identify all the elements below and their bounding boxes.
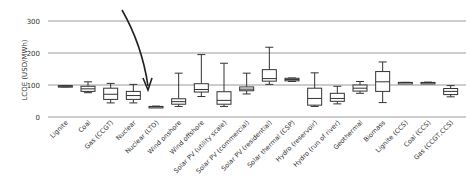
box-hydro-reservoir- — [308, 73, 322, 107]
box-nuclear — [126, 84, 140, 103]
box-nuclear-lto- — [149, 106, 163, 108]
box-wind-offshore — [194, 55, 208, 97]
box-geothermal — [353, 81, 367, 93]
box-lignite-ccs- — [398, 82, 412, 84]
box-gas-ccgt-ccs- — [444, 86, 458, 97]
box-solar-pv-commercial- — [240, 73, 254, 94]
x-tick-label: Gas (CCGT,CCS) — [412, 119, 455, 162]
box-gas-ccgt- — [104, 83, 118, 103]
lcoe-boxplot-chart: 0100200300 LCOE (USD/MWh) LigniteCoalGas… — [0, 0, 474, 189]
y-tick-label: 300 — [27, 18, 40, 26]
annotation-arrow-icon — [122, 10, 152, 90]
x-tick-label: Lignite — [49, 119, 70, 140]
x-axis-labels: LigniteCoalGas (CCGT)NuclearNuclear (LTO… — [49, 118, 456, 175]
box-wind-onshore — [172, 73, 186, 106]
box-solar-thermal-csp- — [285, 78, 299, 82]
box-series — [58, 47, 457, 108]
box-hydro-run-of-river- — [330, 86, 344, 104]
y-axis-label: LCOE (USD/MWh) — [21, 39, 29, 100]
box-coal — [81, 82, 95, 93]
box-lignite — [58, 86, 72, 88]
y-tick-label: 0 — [36, 114, 40, 122]
box-biomass — [376, 62, 390, 103]
x-tick-label: Coal — [77, 119, 93, 135]
box-coal-ccs- — [421, 82, 435, 84]
